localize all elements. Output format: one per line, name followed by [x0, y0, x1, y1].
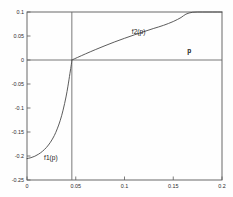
x-tick-label: 0.05	[71, 183, 82, 189]
figure-container: 00.050.10.150.2 0.10.050-0.05-0.1-0.15-0…	[0, 0, 233, 197]
x-tick-label: 0	[26, 183, 29, 189]
x-tick-label: 0.2	[218, 183, 226, 189]
chart-canvas: 00.050.10.150.2 0.10.050-0.05-0.1-0.15-0…	[0, 0, 233, 197]
y-tick-label: -0.2	[15, 153, 24, 159]
x-tick-marks	[27, 177, 222, 181]
y-tick-label: -0.05	[12, 81, 24, 87]
f2-curve-label: f2(p)	[132, 28, 146, 36]
x-tick-label: 0.1	[121, 183, 129, 189]
y-tick-label: -0.15	[12, 129, 24, 135]
x-tick-label: 0.15	[168, 183, 179, 189]
curve-f1	[27, 60, 72, 159]
f1-curve-label: f1(p)	[44, 154, 58, 162]
y-tick-label: -0.25	[12, 177, 24, 183]
y-tick-label: -0.1	[15, 105, 24, 111]
y-tick-label: 0	[21, 57, 24, 63]
p-axis-label: p	[187, 47, 191, 55]
y-tick-label: 0.1	[17, 9, 25, 15]
y-axis-tick-labels: 0.10.050-0.05-0.1-0.15-0.2-0.25	[12, 9, 24, 183]
x-axis-tick-labels: 00.050.10.150.2	[26, 183, 226, 189]
y-tick-marks	[27, 12, 31, 180]
curve-f2	[72, 12, 222, 60]
y-tick-label: 0.05	[14, 33, 25, 39]
